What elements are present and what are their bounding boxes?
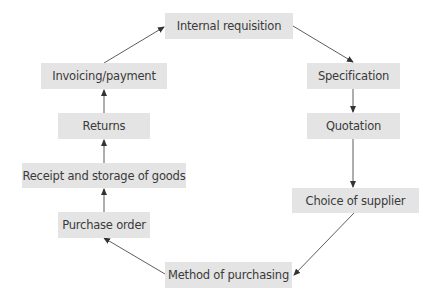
edge-choice-to-method (294, 213, 354, 275)
node-choice-of-supplier: Choice of supplier (292, 188, 419, 213)
edge-method-to-purchase-order (104, 238, 165, 274)
node-label: Internal requisition (177, 19, 282, 33)
node-receipt-and-storage: Receipt and storage of goods (22, 163, 186, 188)
purchasing-cycle-diagram: Internal requisition Specification Quota… (0, 0, 438, 300)
node-label: Invoicing/payment (52, 69, 156, 83)
node-label: Choice of supplier (306, 194, 406, 208)
edge-invoicing-to-requisition (104, 27, 164, 63)
node-specification: Specification (307, 63, 400, 89)
node-label: Purchase order (62, 218, 146, 232)
node-label: Receipt and storage of goods (22, 169, 185, 183)
node-purchase-order: Purchase order (58, 212, 150, 238)
diagram-edges (0, 0, 438, 300)
node-label: Quotation (326, 119, 381, 133)
edge-requisition-to-specification (293, 26, 353, 62)
node-label: Specification (318, 69, 389, 83)
node-label: Method of purchasing (168, 268, 289, 282)
node-label: Returns (83, 119, 126, 133)
node-invoicing-payment: Invoicing/payment (41, 63, 167, 89)
node-quotation: Quotation (307, 113, 400, 139)
node-internal-requisition: Internal requisition (165, 13, 293, 39)
node-method-of-purchasing: Method of purchasing (165, 262, 292, 288)
node-returns: Returns (58, 113, 150, 139)
